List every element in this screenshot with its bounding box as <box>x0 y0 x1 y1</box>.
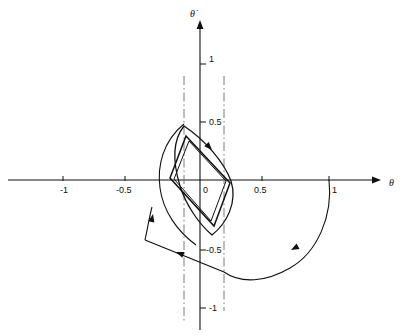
theta-axis-arrowhead <box>372 177 381 184</box>
x-tick-label--0.5: -0.5 <box>116 185 132 195</box>
axes-group <box>8 20 381 330</box>
theta-axis-label: θ <box>389 177 394 188</box>
left-riser-segment <box>145 207 152 240</box>
phase-plane-figure: -1-0.500.5110.5-0.5-1 θ θ̇ <box>0 0 403 336</box>
x-tick-label-0.5: 0.5 <box>254 185 267 195</box>
x-tick-label-0: 0 <box>203 185 208 195</box>
y-tick-label-1: 1 <box>209 54 214 64</box>
y-tick-label--0.5: -0.5 <box>206 245 222 255</box>
y-tick-label-0.5: 0.5 <box>209 117 222 127</box>
x-tick-label--1: -1 <box>60 185 68 195</box>
theta-dot-axis-arrowhead <box>197 20 204 29</box>
trajectories-group <box>145 124 330 280</box>
phase-plane-plot: -1-0.500.5110.5-0.5-1 θ θ̇ <box>0 0 403 336</box>
ticks-group: -1-0.500.5110.5-0.5-1 <box>60 54 337 313</box>
x-tick-label-1: 1 <box>332 185 337 195</box>
arrow-lower-left-segment <box>175 249 185 258</box>
switching-lines-group <box>184 76 224 321</box>
y-tick-label--1: -1 <box>209 303 217 313</box>
theta-dot-axis-label: θ̇ <box>190 8 198 19</box>
arrow-outer-arc <box>290 244 300 253</box>
outer-divergent-trajectory <box>224 180 330 280</box>
